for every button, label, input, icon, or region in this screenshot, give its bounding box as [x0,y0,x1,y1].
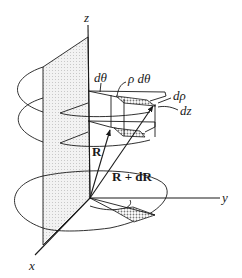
d-rho-label: dρ [173,88,186,103]
upper-ellipse-arc [17,67,43,112]
base-radial-line-1 [90,198,113,210]
d-rho-leader [158,98,171,103]
rho-d-theta-label: ρ dθ [127,71,151,86]
rho-d-theta-leader [117,82,126,96]
R-label: R [92,144,102,159]
z-axis-label: z [83,10,89,25]
theta-half-plane [43,37,90,245]
y-axis-label: y [220,190,228,205]
middle-ellipse-arc [18,98,43,142]
d-theta-label: dθ [94,70,108,85]
dz-leader [158,106,178,110]
cylindrical-coordinates-diagram: z y x dθ ρ dθ dρ dz R R + dR [0,0,242,278]
dz-label: dz [180,103,192,118]
vector-R [90,130,110,198]
volume-element-bottom [114,128,145,137]
R-plus-dR-label: R + dR [112,169,153,184]
base-ellipse-left-arc [15,176,44,228]
x-axis-label: x [28,258,35,273]
volume-element-top [116,96,155,106]
